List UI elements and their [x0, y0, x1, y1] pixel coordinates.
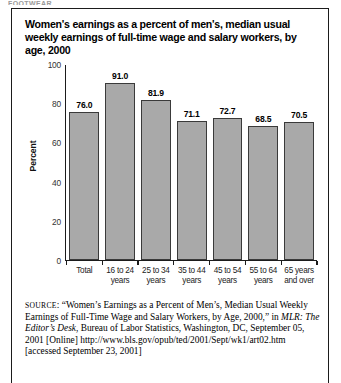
- x-axis-tick-mark: [66, 261, 67, 265]
- bar-column[interactable]: 72.7: [210, 65, 246, 260]
- x-axis-tick-label: 16 to 24years: [102, 266, 138, 287]
- bar-column[interactable]: 91.0: [102, 65, 138, 260]
- x-axis-tick-label: 45 to 54years: [210, 266, 246, 287]
- bar[interactable]: [141, 100, 171, 259]
- bar-column[interactable]: 81.9: [138, 65, 174, 260]
- x-axis-tick-mark: [209, 261, 210, 265]
- x-axis-tick-mark: [102, 261, 103, 265]
- bar-series: 76.091.081.971.172.768.570.5: [66, 65, 317, 260]
- bar[interactable]: [69, 112, 99, 260]
- x-axis-tick-labels: Total 16 to 24years25 to 34years35 to 44…: [66, 266, 317, 287]
- bar[interactable]: [248, 126, 278, 259]
- chart-figure-page: FOOTWEAR Women's earnings as a percent o…: [0, 0, 341, 383]
- running-head: FOOTWEAR: [8, 0, 128, 5]
- x-axis-tick-label: 65 yearsand over: [281, 266, 317, 287]
- figure-inner: Women's earnings as a percent of men's, …: [12, 9, 328, 383]
- bar[interactable]: [177, 121, 207, 259]
- x-axis-tick-mark: [245, 261, 246, 265]
- x-axis-tick-label-line: 55 to 64: [245, 266, 281, 276]
- x-axis-tick-label-line: 16 to 24: [102, 266, 138, 276]
- x-axis-tick-label-line: and over: [281, 276, 317, 286]
- bar[interactable]: [105, 83, 135, 260]
- x-axis-tick-mark: [137, 261, 138, 265]
- x-axis-tick-label-line: 65 years: [281, 266, 317, 276]
- x-axis-tick-label-line: 35 to 44: [174, 266, 210, 276]
- x-axis-tick-label-line: years: [245, 276, 281, 286]
- bar-value-label: 71.1: [174, 109, 210, 119]
- x-axis-tick-label: 35 to 44years: [174, 266, 210, 287]
- x-axis-tick-mark: [173, 261, 174, 265]
- x-axis-tick-label-line: years: [174, 276, 210, 286]
- bar-value-label: 70.5: [281, 110, 317, 120]
- x-axis-tick-marks: [66, 261, 317, 265]
- source-label: SOURCE: [25, 301, 57, 310]
- x-axis-tick-label: Total: [66, 266, 102, 287]
- bar-value-label: 76.0: [66, 100, 102, 110]
- x-axis-tick-label: 25 to 34years: [138, 266, 174, 287]
- x-axis-tick-mark: [316, 261, 317, 265]
- bar-column[interactable]: 68.5: [245, 65, 281, 260]
- y-axis-tick-label: 100: [37, 60, 61, 70]
- bar[interactable]: [284, 122, 314, 259]
- x-axis-tick-label: 55 to 64years: [245, 266, 281, 287]
- bar-column[interactable]: 70.5: [281, 65, 317, 260]
- chart-axes: 76.091.081.971.172.768.570.5: [65, 65, 317, 261]
- y-axis-tick-labels: 100806040200: [37, 65, 61, 261]
- x-axis-tick-label-line: 25 to 34: [138, 266, 174, 276]
- x-axis-tick-label-line: years: [138, 276, 174, 286]
- figure-card: Women's earnings as a percent of men's, …: [11, 8, 329, 383]
- bar-value-label: 68.5: [245, 114, 281, 124]
- x-axis-tick-label-line: [66, 276, 102, 286]
- bar-value-label: 91.0: [102, 71, 138, 81]
- x-axis-tick-label-line: 45 to 54: [210, 266, 246, 276]
- chart-plot-area: Percent 100806040200 76.091.081.971.172.…: [25, 65, 317, 281]
- y-axis-tick-label: 20: [37, 217, 61, 227]
- y-axis-tick-label: 60: [37, 138, 61, 148]
- chart-title: Women's earnings as a percent of men's, …: [25, 18, 317, 57]
- bar-value-label: 72.7: [210, 106, 246, 116]
- source-text-part1: : “Women’s Earnings as a Percent of Men’…: [25, 300, 308, 322]
- y-axis-tick-label: 40: [37, 178, 61, 188]
- bar-column[interactable]: 76.0: [66, 65, 102, 260]
- y-axis-tick-label: 80: [37, 99, 61, 109]
- bar[interactable]: [213, 118, 243, 259]
- bar-value-label: 81.9: [138, 88, 174, 98]
- y-axis-tick-label: 0: [37, 256, 61, 266]
- x-axis-tick-label-line: years: [102, 276, 138, 286]
- x-axis-tick-mark: [281, 261, 282, 265]
- x-axis-tick-label-line: years: [210, 276, 246, 286]
- source-note: SOURCE: “Women’s Earnings as a Percent o…: [25, 300, 321, 358]
- x-axis-tick-label-line: Total: [66, 266, 102, 276]
- bar-column[interactable]: 71.1: [174, 65, 210, 260]
